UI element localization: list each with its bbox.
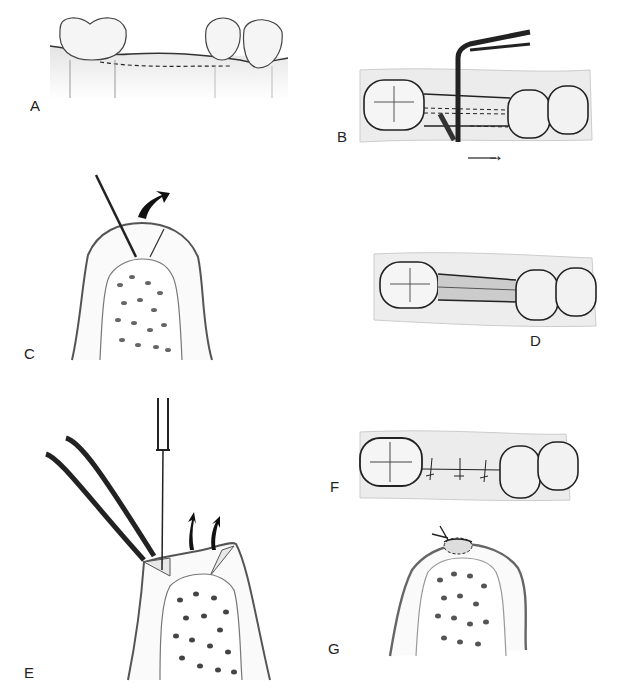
direction-arrow-icon: → — [486, 145, 504, 166]
panel-label-c: C — [24, 345, 35, 362]
figure-caption — [0, 689, 623, 699]
flap-thinning-illustration — [20, 390, 300, 690]
panel-label-g: G — [328, 640, 340, 657]
panel-label-a: A — [30, 97, 40, 114]
panel-label-f: F — [330, 478, 339, 495]
panel-b: → B — [330, 30, 623, 170]
panel-label-e: E — [24, 664, 34, 681]
excised-wedge-illustration — [360, 240, 623, 360]
ridge-lateral-illustration — [0, 0, 300, 140]
elevator-occlusal-illustration — [330, 30, 623, 170]
panel-c: C — [20, 165, 250, 375]
panel-e: E — [20, 390, 300, 690]
panel-f: F — [330, 400, 623, 510]
closed-ridge-illustration — [340, 510, 623, 689]
panel-g: G — [340, 510, 623, 689]
panel-label-d: D — [530, 332, 541, 349]
panel-d: D — [360, 240, 623, 360]
panel-a: A — [0, 0, 300, 140]
sutured-occlusal-illustration — [330, 400, 623, 510]
incision-crosssection-illustration — [20, 165, 250, 375]
panel-label-b: B — [337, 128, 347, 145]
